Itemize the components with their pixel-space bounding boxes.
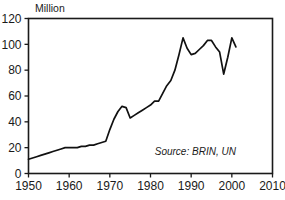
x-axis-tick-labels: 1950196019701980199020002010 [15, 179, 285, 193]
y-tick-label: 100 [1, 38, 21, 52]
x-tick-label: 1980 [137, 179, 164, 193]
x-tick-label: 1960 [56, 179, 83, 193]
y-axis-title: Million [35, 2, 65, 14]
x-tick-label: 1970 [96, 179, 123, 193]
y-tick-label: 20 [8, 141, 22, 155]
y-tick-label: 120 [1, 12, 21, 26]
x-tick-label: 2000 [218, 179, 245, 193]
y-tick-label: 60 [8, 89, 22, 103]
y-tick-label: 40 [8, 115, 22, 129]
x-tick-label: 1990 [178, 179, 205, 193]
x-tick-label: 2010 [259, 179, 285, 193]
data-series-line [29, 38, 236, 159]
line-chart: 020406080100120 195019601970198019902000… [0, 0, 285, 200]
y-tick-label: 80 [8, 63, 22, 77]
source-annotation: Source: BRIN, UN [155, 146, 237, 157]
y-axis-tick-labels: 020406080100120 [1, 12, 21, 181]
x-tick-label: 1950 [15, 179, 42, 193]
chart-container: 020406080100120 195019601970198019902000… [0, 0, 285, 200]
